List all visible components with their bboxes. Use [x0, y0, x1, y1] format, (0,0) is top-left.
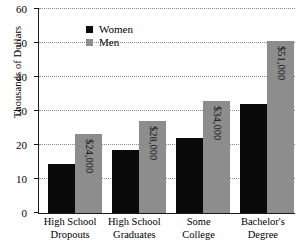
- bar-value-label: $51,000: [275, 46, 286, 80]
- plot-area: 0102030405060 Women Men $24,000$28,000$3…: [38, 9, 295, 214]
- y-tick-label-10: 10: [16, 174, 27, 185]
- legend-item-men[interactable]: Men: [86, 36, 133, 48]
- x-axis-label: High SchoolGraduates: [102, 216, 166, 241]
- x-axis-labels: High SchoolDropoutsHigh SchoolGraduatesS…: [38, 216, 295, 241]
- bar-groups: $24,000$28,000$34,000$51,000: [39, 9, 295, 213]
- bar-value-label: $28,000: [147, 126, 158, 160]
- x-axis-label: High SchoolDropouts: [38, 216, 102, 241]
- legend-label-men: Men: [99, 37, 119, 48]
- legend-label-women: Women: [99, 24, 133, 35]
- bar-group: $34,000: [167, 9, 231, 213]
- x-axis-label: SomeCollege: [167, 216, 231, 241]
- bar-women[interactable]: [240, 104, 267, 213]
- y-tick-label-30: 30: [16, 106, 27, 117]
- legend-swatch-women: [86, 26, 93, 33]
- x-axis-label-line1: Some: [167, 216, 231, 229]
- bar-value-label: $34,000: [211, 106, 222, 140]
- x-axis-label-line1: Bachelor's: [231, 216, 295, 229]
- bar-women[interactable]: [112, 150, 139, 213]
- legend-item-women[interactable]: Women: [86, 23, 133, 35]
- bar-women[interactable]: [176, 138, 203, 213]
- bar-men[interactable]: $28,000: [139, 121, 166, 213]
- x-axis-label: Bachelor'sDegree: [231, 216, 295, 241]
- x-axis-label-line2: College: [167, 229, 231, 242]
- x-axis-label-line1: High School: [102, 216, 166, 229]
- x-axis-label-line2: Degree: [231, 229, 295, 242]
- x-axis-label-line2: Dropouts: [38, 229, 102, 242]
- y-tick-label-50: 50: [16, 38, 27, 49]
- bar-chart: Thousands of Dollars 0102030405060 Women…: [0, 0, 299, 249]
- bar-men[interactable]: $34,000: [203, 101, 230, 213]
- y-tick-label-0: 0: [22, 208, 28, 219]
- y-tick-label-20: 20: [16, 140, 27, 151]
- y-tick-label-60: 60: [16, 4, 27, 15]
- bar-group: $51,000: [231, 9, 295, 213]
- y-tick-label-40: 40: [16, 72, 27, 83]
- bar-men[interactable]: $24,000: [75, 134, 102, 213]
- bar-women[interactable]: [48, 164, 75, 213]
- bar-men[interactable]: $51,000: [267, 41, 294, 213]
- x-axis-label-line1: High School: [38, 216, 102, 229]
- legend-swatch-men: [86, 39, 93, 46]
- x-axis-label-line2: Graduates: [102, 229, 166, 242]
- legend: Women Men: [86, 23, 133, 49]
- bar-value-label: $24,000: [83, 139, 94, 173]
